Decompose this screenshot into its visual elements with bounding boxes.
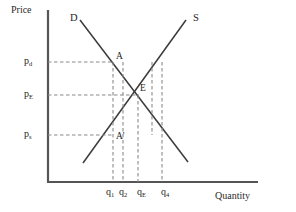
- point-label-a-prime: A': [116, 131, 125, 141]
- quantity-tick-qE: qE: [137, 186, 146, 197]
- supply-curve-label: S: [193, 12, 199, 23]
- price-tick-ps: ps: [24, 128, 32, 139]
- price-tick-pE: pE: [24, 88, 33, 99]
- point-label-e: E: [140, 83, 146, 93]
- plot-canvas: [0, 0, 296, 212]
- supply-curve: [83, 20, 186, 163]
- quantity-tick-q1: q1: [106, 186, 114, 197]
- quantity-tick-q4: q4: [161, 186, 169, 197]
- point-label-a: A: [116, 51, 123, 61]
- demand-curve-label: D: [70, 12, 78, 23]
- price-tick-pd: pd: [24, 55, 32, 66]
- supply-demand-figure: Price Quantity pd pE ps q1 q2 qE q4 D S …: [0, 0, 296, 212]
- x-axis-label: Quantity: [215, 190, 250, 201]
- y-axis-label: Price: [11, 4, 32, 15]
- quantity-tick-q2: q2: [119, 186, 127, 197]
